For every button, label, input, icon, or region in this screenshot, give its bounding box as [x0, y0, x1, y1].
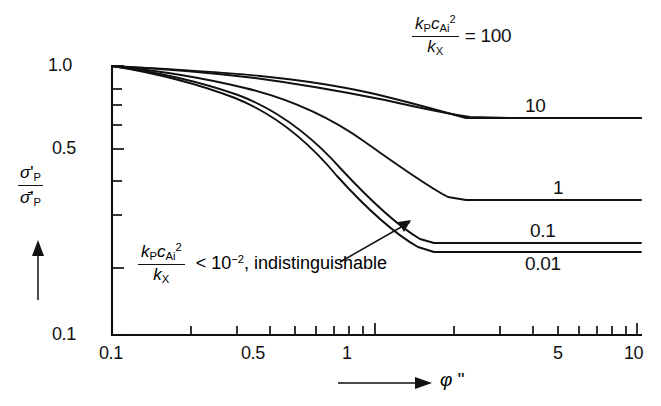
y-axis-title-numerator: σ'P: [18, 163, 43, 186]
x-tick-label-0.1: 0.1: [99, 344, 123, 362]
x-axis-title-arrow: [338, 377, 432, 389]
curve-label-1: 1: [553, 178, 563, 197]
curve-label-10: 10: [525, 96, 546, 115]
annotation-top-right-denominator: kX: [412, 37, 459, 58]
x-tick-label-10: 10: [624, 344, 643, 362]
y-tick-label-0.5: 0.5: [52, 139, 76, 157]
annotation-bottom-left-fraction: kPcAi2 kX: [138, 242, 185, 285]
annotation-bottom-left-denominator: kX: [138, 265, 185, 286]
x-tick-label-1: 1: [342, 344, 352, 362]
y-tick-label-1.0: 1.0: [48, 56, 72, 74]
annotation-top-right-numerator: kPcAi2: [412, 14, 459, 37]
annotation-bottom-left-text: , indistinguishable: [244, 253, 387, 273]
annotation-top-right: kPcAi2 kX = 100: [412, 14, 511, 57]
annotation-bottom-left-numerator: kPcAi2: [138, 242, 185, 265]
x-tick-label-5: 5: [553, 344, 563, 362]
figure-container: 1.0 0.5 0.1 0.1 0.5 1 5 10 σ'P σ̄'P φ " …: [0, 0, 661, 406]
x-tick-label-0.5: 0.5: [241, 344, 265, 362]
annotation-bottom-left: kPcAi2 kX < 10−2, indistinguishable: [138, 242, 387, 285]
x-axis-ticks: [112, 323, 637, 335]
y-axis-title: σ'P σ̄'P: [18, 163, 43, 208]
annotation-top-right-fraction: kPcAi2 kX: [412, 14, 459, 57]
annotation-bottom-left-relation: < 10−2, indistinguishable: [196, 253, 387, 274]
curve-100: [112, 66, 641, 118]
y-tick-label-0.1: 0.1: [52, 325, 76, 343]
curve-10: [112, 66, 641, 118]
y-axis-title-denominator: σ̄'P: [18, 186, 43, 208]
curve-label-0.1: 0.1: [530, 221, 556, 240]
annotation-top-right-value: = 100: [465, 26, 512, 45]
curve-label-0.01: 0.01: [525, 254, 561, 273]
y-axis-title-arrow: [32, 240, 44, 300]
y-axis-ticks: [112, 66, 124, 335]
x-axis-title: φ ": [440, 369, 464, 391]
